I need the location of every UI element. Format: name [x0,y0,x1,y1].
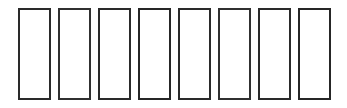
rectangle-4 [138,8,171,100]
rectangle-3 [98,8,131,100]
rectangle-6 [218,8,251,100]
rectangle-5 [178,8,211,100]
rectangle-1 [18,8,51,100]
rectangle-8 [298,8,331,100]
rectangle-row [18,8,331,100]
rectangle-2 [58,8,91,100]
rectangle-7 [258,8,291,100]
diagram-canvas [0,0,347,108]
